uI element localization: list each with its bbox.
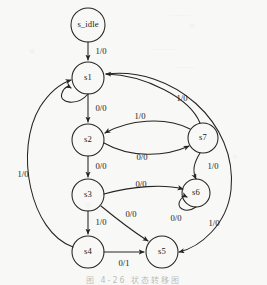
- state-transition-diagram: s_idles1s2s3s4s5s6s7 1/00/00/01/01/01/00…: [0, 0, 267, 285]
- state-label-s2: s2: [84, 134, 92, 144]
- state-node-s4[interactable]: s4: [72, 236, 104, 268]
- edge-label: 1/0: [135, 111, 146, 121]
- nodes-layer: s_idles1s2s3s4s5s6s7: [71, 8, 218, 268]
- edge-label: 0/0: [126, 209, 137, 219]
- edge-label: 1/0: [96, 217, 107, 227]
- figure-root: s_idles1s2s3s4s5s6s7 1/00/00/01/01/01/00…: [0, 0, 267, 285]
- state-label-s1: s1: [84, 72, 92, 82]
- edge-label: 0/0: [96, 103, 107, 113]
- state-node-s3[interactable]: s3: [72, 179, 104, 211]
- state-node-s5[interactable]: s5: [146, 236, 178, 268]
- edge-s7-to-s2: [105, 121, 190, 133]
- edge-label: 1/0: [177, 93, 188, 103]
- edge-label: 0/1: [119, 258, 130, 268]
- state-label-s7: s7: [199, 132, 207, 142]
- edge-s3-to-s5: [101, 206, 148, 241]
- figure-caption: 图 4-26 状态转移图: [0, 274, 267, 285]
- state-node-s6[interactable]: s6: [182, 179, 210, 207]
- state-node-s2[interactable]: s2: [72, 124, 104, 156]
- edge-s7-to-s6: [194, 153, 200, 179]
- edge-s4-to-s1: [27, 80, 73, 247]
- state-label-s3: s3: [84, 189, 92, 199]
- state-label-s6: s6: [192, 187, 200, 197]
- state-label-s4: s4: [84, 246, 92, 256]
- edge-label: 1/0: [18, 169, 29, 179]
- state-label-s5: s5: [158, 246, 166, 256]
- edge-label: 0/0: [171, 213, 182, 223]
- state-node-s_idle[interactable]: s_idle: [71, 8, 105, 42]
- edge-s6-to-s6: [179, 196, 196, 210]
- state-node-s1[interactable]: s1: [72, 62, 104, 94]
- state-label-s_idle: s_idle: [77, 19, 98, 29]
- edge-labels-layer: 1/00/00/01/01/01/00/00/00/00/01/00/11/01…: [18, 46, 220, 268]
- state-node-s7[interactable]: s7: [188, 123, 218, 153]
- edge-label: 0/0: [96, 161, 107, 171]
- edge-label: 1/0: [209, 218, 220, 228]
- edge-label: 0/0: [136, 179, 147, 189]
- edges-layer: [27, 42, 231, 252]
- edge-s1-to-s1: [61, 87, 88, 102]
- edge-label: 0/0: [137, 152, 148, 162]
- edge-label: 1/0: [96, 46, 107, 56]
- edge-label: 1/0: [208, 161, 219, 171]
